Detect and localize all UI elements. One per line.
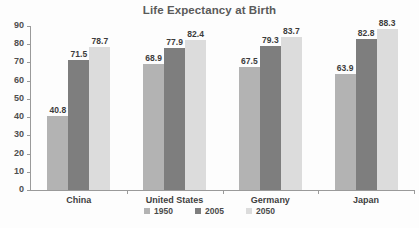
bar-1950-united-states[interactable]	[143, 64, 164, 190]
bar-group-bars: 63.982.888.3	[318, 26, 414, 190]
bar-column[interactable]: 82.8	[356, 26, 377, 190]
bar-column[interactable]: 77.9	[164, 26, 185, 190]
y-axis-tick-label: 80	[14, 38, 24, 48]
y-axis-tick-label: 20	[14, 148, 24, 158]
cut-off-caption	[0, 222, 419, 228]
legend-item-1950[interactable]: 1950	[144, 206, 173, 216]
y-axis-tick-mark	[27, 190, 31, 191]
bar-column[interactable]: 82.4	[185, 26, 206, 190]
x-axis-category-label: Germany	[223, 195, 319, 205]
bar-column[interactable]: 78.7	[89, 26, 110, 190]
bar-column[interactable]: 88.3	[377, 26, 398, 190]
bar-value-label: 63.9	[337, 63, 354, 73]
legend-swatch-icon	[246, 208, 252, 214]
y-axis-tick-label: 40	[14, 111, 24, 121]
chart-legend: 195020052050	[0, 206, 419, 216]
legend-label: 1950	[154, 206, 173, 216]
legend-item-2005[interactable]: 2005	[195, 206, 224, 216]
bar-group: 68.977.982.4	[127, 26, 223, 190]
legend-label: 2050	[256, 206, 275, 216]
bar-value-label: 78.7	[92, 36, 109, 46]
bar-2005-germany[interactable]	[260, 46, 281, 191]
bar-value-label: 67.5	[241, 56, 258, 66]
bar-column[interactable]: 83.7	[281, 26, 302, 190]
bar-value-label: 79.3	[262, 35, 279, 45]
y-axis-tick-label: 50	[14, 93, 24, 103]
bar-value-label: 82.8	[358, 28, 375, 38]
bar-group-bars: 68.977.982.4	[127, 26, 223, 190]
bar-value-label: 83.7	[283, 26, 300, 36]
legend-swatch-icon	[144, 208, 150, 214]
y-axis-tick-label: 0	[19, 184, 24, 194]
y-axis-tick-label: 30	[14, 129, 24, 139]
bar-column[interactable]: 40.8	[47, 26, 68, 190]
x-axis-tick-mark	[223, 190, 224, 194]
bar-group-bars: 67.579.383.7	[223, 26, 319, 190]
bar-2050-germany[interactable]	[281, 37, 302, 190]
x-axis-category-label: China	[31, 195, 127, 205]
bar-value-label: 68.9	[145, 53, 162, 63]
x-axis-category-label: Japan	[318, 195, 414, 205]
bar-2005-united-states[interactable]	[164, 48, 185, 190]
bar-value-label: 40.8	[50, 105, 67, 115]
chart-title: Life Expectancy at Birth	[0, 4, 419, 16]
bar-group: 40.871.578.7	[31, 26, 127, 190]
bar-2050-china[interactable]	[89, 47, 110, 190]
y-axis-tick-label: 10	[14, 166, 24, 176]
x-axis-category-label: United States	[127, 195, 223, 205]
y-axis-tick-label: 70	[14, 56, 24, 66]
bar-1950-japan[interactable]	[335, 74, 356, 190]
legend-item-2050[interactable]: 2050	[246, 206, 275, 216]
bar-2005-china[interactable]	[68, 60, 89, 190]
bar-group: 63.982.888.3	[318, 26, 414, 190]
bar-2005-japan[interactable]	[356, 39, 377, 190]
bar-column[interactable]: 68.9	[143, 26, 164, 190]
bar-column[interactable]: 63.9	[335, 26, 356, 190]
x-axis-tick-mark	[318, 190, 319, 194]
legend-label: 2005	[205, 206, 224, 216]
y-axis-tick-label: 60	[14, 75, 24, 85]
bar-value-label: 71.5	[71, 49, 88, 59]
bar-1950-china[interactable]	[47, 116, 68, 190]
bar-1950-germany[interactable]	[239, 67, 260, 190]
bar-group-bars: 40.871.578.7	[31, 26, 127, 190]
bar-value-label: 77.9	[166, 37, 183, 47]
y-axis-tick-label: 90	[14, 20, 24, 30]
legend-swatch-icon	[195, 208, 201, 214]
x-axis-tick-mark	[127, 190, 128, 194]
plot-area: 40.871.578.768.977.982.467.579.383.763.9…	[31, 26, 414, 190]
bar-group: 67.579.383.7	[223, 26, 319, 190]
bar-column[interactable]: 67.5	[239, 26, 260, 190]
bar-2050-united-states[interactable]	[185, 40, 206, 190]
bar-2050-japan[interactable]	[377, 29, 398, 190]
bar-chart: Life Expectancy at Birth 908070605040302…	[0, 0, 419, 228]
bar-column[interactable]: 79.3	[260, 26, 281, 190]
x-axis-tick-mark	[414, 190, 415, 194]
bar-value-label: 82.4	[187, 29, 204, 39]
bar-value-label: 88.3	[379, 18, 396, 28]
bar-column[interactable]: 71.5	[68, 26, 89, 190]
